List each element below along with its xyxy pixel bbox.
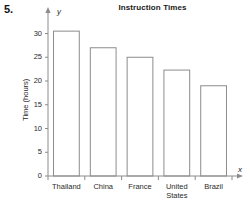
y-axis-letter: y [57, 8, 61, 16]
x-axis-arrow [237, 173, 243, 178]
y-tick-label: 25 [26, 53, 42, 61]
bar [127, 57, 153, 176]
bar [164, 70, 190, 176]
y-tick-label: 5 [26, 148, 42, 156]
bar [90, 48, 116, 176]
y-tick-label: 15 [26, 101, 42, 109]
bars-group [54, 31, 227, 176]
figure-container: 5. Instruction Times Time (hours) y x Th… [0, 0, 250, 213]
bar [201, 86, 227, 176]
y-tick-label: 0 [26, 172, 42, 180]
y-tick-label: 30 [26, 30, 42, 38]
y-tick-label: 10 [26, 125, 42, 133]
x-axis-letter: x [238, 166, 242, 174]
y-axis-arrow [45, 7, 50, 13]
bar [54, 31, 80, 176]
y-tick-label: 20 [26, 77, 42, 85]
x-tick-label: Brazil [190, 182, 238, 191]
